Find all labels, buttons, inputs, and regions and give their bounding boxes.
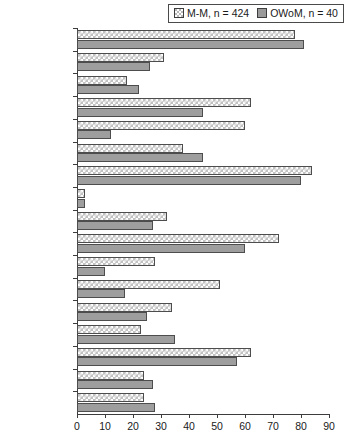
x-axis-tick-label: 30 (146, 420, 176, 432)
bar-series-a (77, 325, 141, 334)
chart-row: Break.I.Rel (77, 232, 329, 255)
chart-row: Conv.A.Wo* (77, 119, 329, 142)
chart-row: SexV.notDom* (77, 255, 329, 278)
x-axis-tick-label: 70 (258, 420, 288, 432)
legend-swatch-hatched-icon (174, 8, 184, 18)
bar-series-a (77, 53, 164, 62)
bar-series-a (77, 257, 155, 266)
chart-row: Police (77, 28, 329, 51)
x-axis-tick (105, 414, 106, 418)
chart-row: DrugAbuse (77, 323, 329, 346)
y-axis-tick (73, 232, 77, 233)
legend-entry-series-b: OWoM, n = 40 (257, 7, 338, 19)
bar-series-b (77, 403, 155, 412)
bar-series-a (77, 212, 167, 221)
x-axis-tick-label: 90 (314, 420, 344, 432)
bar-series-a (77, 393, 144, 402)
bar-series-b (77, 335, 175, 344)
y-axis-tick (73, 346, 77, 347)
x-axis-tick-label: 0 (62, 420, 92, 432)
bar-series-a (77, 121, 245, 130)
bar-series-b (77, 199, 85, 208)
x-axis-tick-label: 60 (230, 420, 260, 432)
chart-legend: M-M, n = 424 OWoM, n = 40 (168, 4, 344, 23)
legend-swatch-solid-icon (257, 8, 267, 18)
bar-series-b (77, 244, 245, 253)
chart-row: Alco.Abuse (77, 346, 329, 369)
y-axis-tick (73, 73, 77, 74)
x-axis-tick (329, 414, 330, 418)
bar-series-a (77, 189, 85, 198)
y-axis-tick (73, 255, 77, 256)
chart-row: Educ/GCSE (77, 391, 329, 414)
y-axis-tick (73, 142, 77, 143)
bar-series-b (77, 108, 203, 117)
chart-row: Psych. (77, 51, 329, 74)
x-axis-tick-label: 80 (286, 420, 316, 432)
chart-row: SexProb/Issues* (77, 278, 329, 301)
bar-series-b (77, 62, 150, 71)
bar-series-a (77, 144, 183, 153)
x-axis-tick (301, 414, 302, 418)
bar-series-b (77, 357, 237, 366)
bar-series-b (77, 267, 105, 276)
bar-series-b (77, 380, 153, 389)
bar-series-b (77, 40, 304, 49)
bar-series-b (77, 85, 139, 94)
y-axis-tick (73, 210, 77, 211)
chart-row: Viol.prev I.Rel. (77, 210, 329, 233)
bar-series-a (77, 280, 220, 289)
legend-label-series-a: M-M, n = 424 (187, 7, 249, 19)
y-axis-tick (73, 96, 77, 97)
x-axis-tick (273, 414, 274, 418)
x-axis-tick (245, 414, 246, 418)
y-axis-tick (73, 391, 77, 392)
bar-series-b (77, 153, 203, 162)
chart-row: SexAb.prevIP (77, 187, 329, 210)
bar-series-b (77, 312, 147, 321)
y-axis-tick (73, 28, 77, 29)
x-axis-line (77, 414, 329, 415)
legend-label-series-b: OWoM, n = 40 (270, 7, 338, 19)
y-axis-tick (73, 300, 77, 301)
x-axis-tick (133, 414, 134, 418)
plot-area: 0102030405060708090PolicePsych.SocWkPris… (77, 28, 329, 414)
grouped-bar-chart: M-M, n = 424 OWoM, n = 40 01020304050607… (0, 0, 349, 446)
x-axis-tick-label: 50 (202, 420, 232, 432)
x-axis-tick-label: 10 (90, 420, 120, 432)
bar-series-a (77, 371, 144, 380)
bar-series-b (77, 130, 111, 139)
chart-row: Prison* (77, 96, 329, 119)
y-axis-tick (73, 323, 77, 324)
x-axis-tick-label: 20 (118, 420, 148, 432)
chart-row: ++CrimBeh (77, 164, 329, 187)
x-axis-tick (77, 414, 78, 418)
bar-series-a (77, 76, 127, 85)
bar-series-b (77, 176, 301, 185)
chart-row: Employed (77, 369, 329, 392)
y-axis-tick (73, 369, 77, 370)
y-axis-tick (73, 278, 77, 279)
y-axis-tick (73, 51, 77, 52)
bar-series-a (77, 303, 172, 312)
x-axis-tick (217, 414, 218, 418)
y-axis-tick (73, 164, 77, 165)
bar-series-b (77, 221, 153, 230)
y-axis-tick (73, 119, 77, 120)
x-axis-tick (161, 414, 162, 418)
x-axis-tick (189, 414, 190, 418)
chart-row: SocWk (77, 73, 329, 96)
y-axis-tick (73, 187, 77, 188)
bar-series-a (77, 98, 251, 107)
legend-entry-series-a: M-M, n = 424 (174, 7, 249, 19)
bar-series-a (77, 234, 279, 243)
bar-series-a (77, 166, 312, 175)
chart-row: MenHeath (77, 300, 329, 323)
x-axis-tick-label: 40 (174, 420, 204, 432)
bar-series-a (77, 30, 295, 39)
bar-series-a (77, 348, 251, 357)
bar-series-b (77, 289, 125, 298)
chart-row: PhyV.gen (77, 142, 329, 165)
